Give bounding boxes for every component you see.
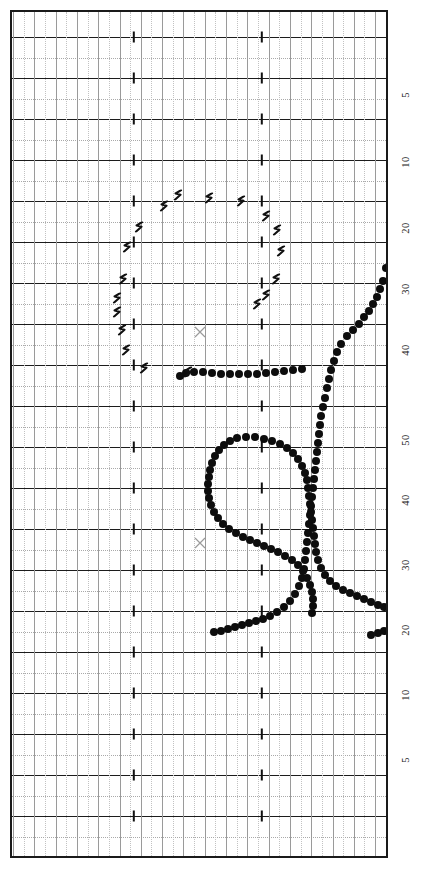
data-point-dot	[353, 592, 361, 600]
data-point-dot	[343, 332, 351, 340]
axis-tick	[133, 32, 135, 43]
grid-line-major-h	[12, 283, 386, 284]
axis-tick	[261, 237, 263, 248]
grid-line-minor-v	[194, 12, 195, 856]
data-point-dot	[224, 625, 232, 633]
data-point-dot	[244, 370, 252, 378]
data-point-dot	[274, 548, 282, 556]
data-point-dot	[330, 357, 338, 365]
data-point-hook	[119, 271, 128, 282]
axis-tick	[261, 196, 263, 207]
grid-line-minor-h	[12, 427, 386, 428]
axis-tick	[133, 114, 135, 125]
grid-line-major-h	[12, 324, 386, 325]
data-point-dot	[246, 536, 254, 544]
grid-line-minor-h	[12, 263, 386, 264]
axis-tick	[133, 237, 135, 248]
grid-line-major-h	[12, 611, 386, 612]
grid-line-major-h	[12, 37, 386, 38]
grid-line-minor-v	[130, 12, 131, 856]
data-point-dot	[301, 469, 309, 477]
data-point-dot	[321, 571, 329, 579]
axis-tick-label: 20	[400, 624, 411, 635]
axis-tick	[133, 483, 135, 494]
data-point-dot	[245, 619, 253, 627]
data-point-dot	[310, 532, 318, 540]
data-point-dot	[176, 372, 184, 380]
axis-tick	[133, 770, 135, 781]
axis-tick	[261, 319, 263, 330]
data-point-dot	[298, 365, 306, 373]
data-point-dot	[316, 421, 324, 429]
axis-tick	[261, 360, 263, 371]
data-point-hook	[140, 360, 149, 371]
data-point-hook	[205, 190, 214, 201]
data-point-dot	[300, 565, 308, 573]
axis-tick	[261, 524, 263, 535]
axis-tick-label: 20	[400, 222, 411, 233]
data-point-dot	[252, 617, 260, 625]
grid-line-minor-h	[12, 58, 386, 59]
data-point-dot	[374, 629, 382, 637]
grid-line-minor-v	[45, 12, 46, 856]
data-point-dot	[294, 455, 302, 463]
x-marker	[194, 325, 207, 338]
data-point-dot	[205, 473, 213, 481]
data-point-dot	[299, 567, 307, 575]
data-point-dot	[301, 556, 309, 564]
data-point-dot	[232, 529, 240, 537]
data-point-dot	[260, 435, 268, 443]
data-point-hook	[273, 222, 282, 233]
data-point-dot	[355, 320, 363, 328]
data-point-dot	[205, 494, 213, 502]
data-point-dot	[295, 582, 303, 590]
axis-tick	[261, 811, 263, 822]
data-point-hook	[113, 304, 122, 315]
grid-line-minor-v	[173, 12, 174, 856]
grid-line-minor-v	[386, 12, 387, 856]
grid-line-minor-h	[12, 714, 386, 715]
data-point-dot	[365, 307, 373, 315]
data-point-dot	[226, 437, 234, 445]
axis-tick	[261, 278, 263, 289]
axis-tick	[133, 565, 135, 576]
axis-tick	[133, 729, 135, 740]
grid-line-major-h	[12, 734, 386, 735]
data-point-dot	[266, 612, 274, 620]
grid-line-major-h	[12, 447, 386, 448]
data-point-dot	[367, 631, 375, 639]
grid-line-minor-h	[12, 591, 386, 592]
grid-line-minor-h	[12, 181, 386, 182]
grid-line-minor-v	[364, 12, 365, 856]
data-point-dot	[321, 394, 329, 402]
grid-line-minor-v	[279, 12, 280, 856]
axis-tick	[261, 729, 263, 740]
data-point-dot	[314, 556, 322, 564]
data-point-dot	[346, 589, 354, 597]
grid-line-major-v	[375, 12, 376, 856]
data-point-dot	[190, 368, 198, 376]
data-point-dot	[280, 367, 288, 375]
data-point-dot	[304, 529, 312, 537]
data-point-dot	[308, 588, 316, 596]
data-point-hook	[184, 364, 193, 375]
axis-tick-label: 5	[400, 757, 411, 763]
data-point-dot	[309, 595, 317, 603]
data-point-dot	[217, 370, 225, 378]
data-point-dot	[271, 368, 279, 376]
axis-tick	[133, 360, 135, 371]
data-point-dot	[304, 484, 312, 492]
grid-line-minor-v	[343, 12, 344, 856]
axis-tick	[261, 565, 263, 576]
data-point-dot	[211, 452, 219, 460]
data-point-hook	[174, 187, 183, 198]
data-point-dot	[286, 597, 294, 605]
grid-line-minor-v	[109, 12, 110, 856]
data-point-dot	[204, 487, 212, 495]
grid-line-major-h	[12, 406, 386, 407]
axis-tick	[133, 811, 135, 822]
axis-tick	[133, 688, 135, 699]
grid-line-minor-h	[12, 386, 386, 387]
data-marks-layer	[12, 12, 386, 856]
axis-tick	[133, 606, 135, 617]
